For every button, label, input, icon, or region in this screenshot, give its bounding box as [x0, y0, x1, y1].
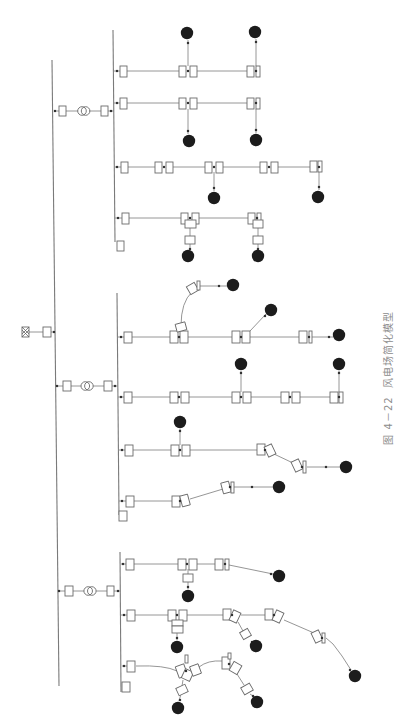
wind-turbine-icon [250, 134, 262, 146]
junction-dot [325, 466, 327, 468]
junction-dot [185, 670, 187, 672]
feeder-3 [114, 161, 324, 204]
junction-dot [255, 70, 257, 72]
feeder-3 [119, 416, 352, 473]
switch-box-icon [247, 98, 254, 109]
junction-dot [264, 315, 266, 317]
junction-dot [122, 563, 124, 565]
junction-dot [251, 486, 253, 488]
transformer-branch [56, 381, 118, 391]
switch-box-icon [232, 331, 240, 343]
junction-dot [308, 336, 310, 338]
switch-box-icon [124, 392, 132, 403]
switch-box-icon [330, 392, 338, 403]
switch-box-icon [125, 445, 133, 456]
switch-box-icon [170, 331, 178, 343]
spare-bay-box-icon [122, 682, 130, 692]
switch-box-icon [63, 381, 71, 391]
switch-box-icon [291, 459, 303, 472]
junction-dot [120, 396, 122, 398]
switch-box-icon [232, 392, 240, 403]
junction-dot [54, 110, 56, 112]
junction-dot [229, 486, 231, 488]
wind-turbine-icon [183, 135, 195, 147]
wind-farm-diagram [0, 0, 418, 723]
wind-turbine-icon [171, 641, 183, 653]
switch-box-icon [179, 66, 186, 77]
wind-turbine-icon [182, 250, 194, 262]
switch-box-icon [242, 331, 250, 343]
junction-dot [179, 699, 181, 701]
switch-box-icon [185, 655, 188, 663]
wind-turbine-icon [250, 640, 262, 652]
wind-turbine-icon [265, 304, 277, 316]
feeder-1 [118, 279, 345, 343]
switch-box-icon [310, 161, 317, 172]
grid-source-icon [22, 327, 29, 337]
switch-box-icon [190, 98, 197, 109]
junction-dot [116, 70, 118, 72]
switch-box-icon [243, 392, 251, 403]
junction-dot [187, 102, 189, 104]
switch-box-icon [126, 496, 134, 507]
junction-dot [240, 336, 242, 338]
feeder-2 [118, 358, 345, 403]
junction-dot [328, 336, 330, 338]
transformer-icon [84, 587, 96, 596]
wind-turbine-icon [333, 358, 345, 370]
wind-turbine-icon [227, 279, 239, 291]
switch-box-icon [120, 98, 127, 109]
junction-dot [255, 102, 257, 104]
junction-dot [117, 217, 119, 219]
grid-source-breaker [43, 327, 55, 337]
junction-dot [231, 614, 233, 616]
wind-turbine-icon [273, 570, 285, 582]
switch-box-icon [190, 66, 197, 77]
substations-layer [54, 26, 361, 714]
switch-box-icon [180, 331, 188, 343]
collector-bus [120, 552, 121, 692]
switch-box-icon [180, 494, 191, 507]
connection-line [229, 565, 273, 574]
junction-dot [53, 331, 55, 333]
spare-bay-box-icon [117, 241, 124, 251]
switch-box-icon [253, 220, 263, 228]
switch-box-icon [182, 445, 190, 456]
junction-dot [257, 248, 259, 250]
junction-dot [318, 166, 320, 168]
figure-caption: 图 4－22风电场简化模型 [380, 311, 395, 444]
junction-dot [178, 336, 180, 338]
connection-curve [333, 644, 351, 670]
switch-box-icon [260, 162, 267, 173]
wind-turbine-icon [340, 461, 352, 473]
wind-turbine-icon [181, 27, 193, 39]
switch-box-icon [185, 220, 196, 228]
switch-box-icon [228, 653, 231, 659]
switch-box-icon [185, 236, 195, 244]
junction-dot [163, 166, 165, 168]
junction-dot [240, 372, 242, 374]
switch-box-icon [127, 610, 135, 621]
junction-dot [187, 130, 189, 132]
feeder-1 [121, 559, 285, 602]
junction-dot [338, 372, 340, 374]
wind-turbine-icon [252, 250, 264, 262]
switch-box-icon [216, 162, 223, 173]
wind-turbine-icon [349, 670, 361, 682]
switch-box-icon [265, 609, 273, 620]
wind-turbine-icon [333, 329, 345, 341]
wind-turbine-icon [172, 702, 184, 714]
switch-box-icon [231, 482, 234, 493]
collector-bus [117, 293, 119, 515]
switch-box-icon [311, 630, 323, 643]
switch-box-icon [170, 392, 178, 403]
switch-box-icon [172, 620, 183, 626]
feeder-2 [121, 609, 361, 682]
wind-turbine-icon [174, 416, 186, 428]
transformer-branch [54, 106, 114, 116]
switch-box-icon [120, 66, 127, 77]
figure-title: 风电场简化模型 [383, 311, 394, 388]
switch-box-icon [240, 628, 252, 639]
switch-box-icon [171, 445, 179, 456]
junction-dot [179, 449, 181, 451]
